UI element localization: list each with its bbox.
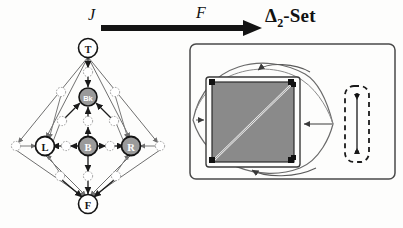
figure-graphics: T Bk L B R xyxy=(0,0,403,228)
node-R[interactable]: R xyxy=(122,137,141,156)
node-F[interactable]: F xyxy=(79,195,98,214)
vertex-dot xyxy=(291,82,296,87)
minor-node xyxy=(110,87,119,96)
node-T-label: T xyxy=(85,44,92,55)
delta-set-diagram xyxy=(190,44,395,179)
node-T[interactable]: T xyxy=(79,39,98,58)
minor-node xyxy=(55,171,64,180)
node-Bk[interactable]: Bk xyxy=(79,88,97,106)
minor-node xyxy=(155,141,164,150)
minor-node xyxy=(61,141,70,150)
minor-node xyxy=(83,171,92,180)
node-R-label: R xyxy=(127,142,135,153)
minor-node xyxy=(83,116,92,125)
functor-arrow xyxy=(101,20,262,36)
figure-canvas: J F Δ2-Set xyxy=(0,0,403,228)
node-L[interactable]: L xyxy=(36,137,55,156)
vertex-dot xyxy=(209,79,215,85)
minor-node xyxy=(105,141,114,150)
vertex-dot xyxy=(291,155,296,160)
minor-node xyxy=(57,116,66,125)
lattice-diagram: T Bk L B R xyxy=(11,39,164,214)
minor-node xyxy=(83,67,92,76)
minor-node xyxy=(109,116,118,125)
vertex-dot xyxy=(209,157,215,163)
node-F-label: F xyxy=(85,200,91,211)
node-B[interactable]: B xyxy=(79,137,98,156)
minor-node xyxy=(56,87,65,96)
simplex-bottom-arrow xyxy=(354,148,360,154)
simplex-vertex-top xyxy=(355,93,359,97)
node-L-label: L xyxy=(41,142,48,153)
minor-node xyxy=(111,171,120,180)
node-Bk-label: Bk xyxy=(83,94,93,103)
node-B-label: B xyxy=(84,142,91,153)
minor-node xyxy=(11,141,20,150)
